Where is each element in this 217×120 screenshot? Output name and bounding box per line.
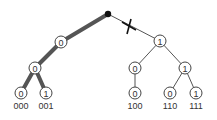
leaf-label-111: 111 bbox=[189, 101, 203, 111]
leaf-labels: 000 001 100 110 111 bbox=[13, 101, 202, 111]
leaf-label-110: 110 bbox=[163, 101, 177, 111]
leaf-label-001: 001 bbox=[38, 101, 53, 111]
leaf-label-100: 100 bbox=[127, 101, 142, 111]
node-n100: 0 bbox=[129, 87, 141, 99]
node-bit: 1 bbox=[193, 89, 198, 99]
node-bit: 1 bbox=[182, 64, 187, 74]
cut-mark-icon bbox=[122, 19, 136, 34]
node-n0: 0 bbox=[55, 36, 67, 48]
node-bit: 0 bbox=[132, 89, 137, 99]
node-n1: 1 bbox=[154, 35, 166, 47]
node-bit: 0 bbox=[58, 38, 63, 48]
trie-diagram: 0 1 0 0 1 0 1 0 0 1 000 001 100 110 111 bbox=[0, 0, 217, 120]
node-n00: 0 bbox=[29, 62, 41, 74]
node-n110: 0 bbox=[164, 87, 176, 99]
node-n111: 1 bbox=[190, 87, 202, 99]
node-bit: 0 bbox=[18, 89, 23, 99]
node-n001: 1 bbox=[40, 87, 52, 99]
thin-edges bbox=[108, 14, 196, 93]
node-n000: 0 bbox=[15, 87, 27, 99]
root-node bbox=[105, 11, 111, 17]
node-bit: 0 bbox=[132, 64, 137, 74]
edge-root-n0 bbox=[61, 14, 108, 42]
leaf-label-000: 000 bbox=[13, 101, 28, 111]
tree-nodes: 0 1 0 0 1 0 1 0 0 1 bbox=[15, 35, 202, 99]
node-n11: 1 bbox=[179, 62, 191, 74]
node-bit: 1 bbox=[43, 89, 48, 99]
node-bit: 1 bbox=[157, 37, 162, 47]
node-bit: 0 bbox=[32, 64, 37, 74]
edge-root-n1 bbox=[108, 14, 160, 41]
node-bit: 0 bbox=[167, 89, 172, 99]
node-n10: 0 bbox=[129, 62, 141, 74]
thick-edges bbox=[21, 14, 108, 93]
